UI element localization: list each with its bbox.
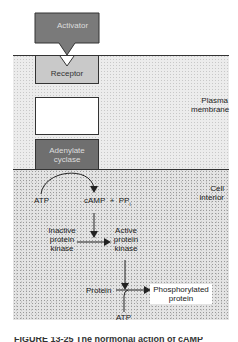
cell-interior-label-2: interior — [191, 193, 224, 202]
active-kinase-label-3: kinase — [111, 244, 141, 253]
cell-interior-label-1: Cell — [191, 184, 224, 193]
plasma-membrane-label-2: membrane — [191, 105, 228, 114]
inactive-kinase-label: Inactive protein kinase — [46, 226, 78, 253]
atp-label: ATP — [34, 196, 49, 205]
inactive-kinase-label-3: kinase — [46, 244, 78, 253]
active-kinase-label-1: Active — [111, 226, 141, 235]
active-kinase-label-2: protein — [111, 235, 141, 244]
active-kinase-label: Active protein kinase — [111, 226, 141, 253]
phosphorylated-protein-label-2: protein — [150, 294, 212, 303]
activator-label: Activator — [57, 21, 88, 30]
ppi-subscript: i — [129, 201, 130, 207]
phosphorylated-protein-label-1: Phosphorylated — [150, 285, 212, 294]
plasma-membrane-label: Plasma membrane — [191, 96, 228, 114]
phosphorylated-protein-label: Phosphorylated protein — [150, 284, 212, 304]
protein-label: Protein — [86, 286, 111, 295]
activator-shape — [35, 13, 99, 55]
camp-ppi-label: cAMP + PPi — [84, 196, 131, 209]
inactive-kinase-label-1: Inactive — [46, 226, 78, 235]
cell-interior-label: Cell interior — [191, 184, 224, 202]
atp-label-2: ATP — [116, 313, 131, 322]
inactive-kinase-label-2: protein — [46, 235, 78, 244]
camp-ppi-text: cAMP + PP — [84, 196, 129, 205]
plasma-membrane-label-1: Plasma — [191, 96, 228, 105]
